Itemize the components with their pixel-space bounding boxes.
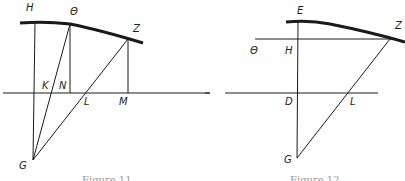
- label-E: E: [297, 6, 303, 16]
- label-Z: Z: [133, 24, 140, 34]
- line-ZG: [33, 39, 128, 160]
- label-L: L: [84, 97, 90, 107]
- caption-left: Figure 11: [82, 175, 132, 181]
- label-H-right: H: [285, 46, 293, 56]
- label-G: G: [19, 161, 27, 171]
- label-N: N: [59, 81, 66, 91]
- label-M: M: [119, 97, 128, 107]
- label-L-right: L: [350, 97, 356, 107]
- label-theta-right: Θ: [250, 46, 258, 56]
- label-H: H: [26, 3, 34, 13]
- label-Z-right: Z: [395, 21, 402, 31]
- line-ZG-right: [297, 39, 390, 158]
- curve-left: [20, 22, 143, 43]
- label-D: D: [285, 97, 293, 107]
- caption-right: Figure 12: [290, 175, 340, 181]
- line-ThetaG: [33, 24, 70, 160]
- label-theta: Θ: [70, 7, 78, 17]
- label-G-right: G: [284, 155, 292, 165]
- figure-left: [3, 22, 210, 160]
- line-EG: [297, 22, 298, 158]
- figure-right: [205, 21, 405, 158]
- label-K: K: [42, 81, 49, 91]
- line-HG: [33, 23, 35, 160]
